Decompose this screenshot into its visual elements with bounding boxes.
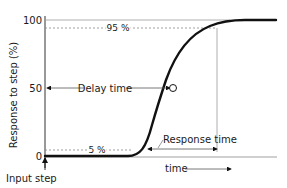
midpoint-marker: [170, 85, 177, 92]
input-step-label: Input step: [6, 173, 57, 184]
response-time-label: Response time: [163, 134, 237, 145]
y-tick-50: 50: [29, 83, 42, 94]
y-axis-label: Response to step (%): [8, 42, 19, 149]
step-response-diagram: 100 50 0 Response to step (%) 95 % 5 % D…: [0, 0, 287, 188]
delay-time-label: Delay time: [78, 83, 132, 94]
time-axis-label: time: [165, 163, 188, 174]
label-5-percent: 5 %: [88, 145, 106, 155]
y-tick-0: 0: [36, 151, 42, 162]
label-95-percent: 95 %: [107, 23, 130, 33]
y-tick-100: 100: [23, 15, 42, 26]
